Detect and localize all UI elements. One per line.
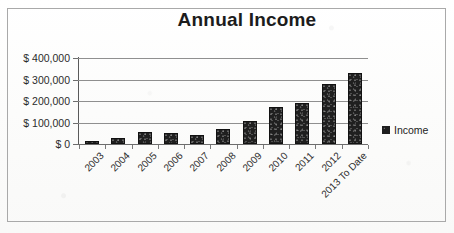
bar-2008: [216, 129, 230, 144]
bar-2005: [138, 132, 152, 144]
x-tick: [132, 145, 133, 149]
x-axis-labels: 2003200420052006200720082009201020112012…: [79, 150, 369, 210]
bar-slot: [342, 58, 368, 144]
x-axis-label: 2007: [187, 150, 211, 174]
x-axis-label: 2006: [161, 150, 185, 174]
chart-legend: Income: [382, 124, 428, 136]
x-tick: [184, 145, 185, 149]
x-axis-label: 2012: [319, 150, 343, 174]
legend-swatch-income: [382, 126, 390, 134]
bar-2004: [111, 138, 125, 144]
bar-2007: [190, 135, 204, 144]
chart-title: Annual Income: [0, 9, 454, 31]
bar-2003: [85, 141, 99, 144]
bar-2011: [295, 103, 309, 144]
x-axis-label: 2008: [214, 150, 238, 174]
bar-slot: [263, 58, 289, 144]
bar-slot: [237, 58, 263, 144]
x-tick: [237, 145, 238, 149]
bar-slot: [105, 58, 131, 144]
legend-label-income: Income: [394, 124, 428, 136]
chart-screenshot: Annual Income $ 0$ 100,000$ 200,000$ 300…: [0, 0, 454, 233]
x-axis-ticks: [79, 145, 369, 149]
x-tick: [105, 145, 106, 149]
bar-slot: [210, 58, 236, 144]
x-tick: [315, 145, 316, 149]
bar-2012: [322, 84, 336, 144]
x-tick: [368, 145, 369, 149]
x-axis-label: 2005: [135, 150, 159, 174]
bar-2006: [164, 133, 178, 144]
bar-slot: [79, 58, 105, 144]
x-tick: [263, 145, 264, 149]
x-tick: [210, 145, 211, 149]
x-tick: [79, 145, 80, 149]
bar-slot: [289, 58, 315, 144]
x-axis-label: 2004: [109, 150, 133, 174]
x-axis-label: 2009: [240, 150, 264, 174]
bar-slot: [184, 58, 210, 144]
bar-2013-to-date: [348, 73, 362, 144]
x-tick: [158, 145, 159, 149]
bar-slot: [315, 58, 341, 144]
bar-series-income: [79, 58, 368, 144]
bar-2010: [269, 107, 283, 144]
x-axis-label: 2003: [82, 150, 106, 174]
bar-2009: [243, 121, 257, 144]
x-tick: [342, 145, 343, 149]
x-axis-label: 2011: [293, 150, 316, 173]
x-axis-label: 2010: [266, 150, 290, 174]
bar-slot: [158, 58, 184, 144]
x-tick: [289, 145, 290, 149]
bar-slot: [132, 58, 158, 144]
